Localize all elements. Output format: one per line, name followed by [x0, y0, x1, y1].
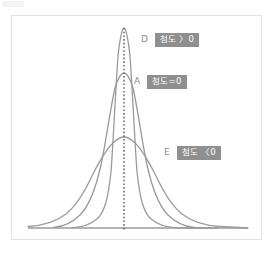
distribution-plot [0, 0, 275, 254]
kurtosis-figure: D 첨도 〉0 A 첨도=0 E 첨도 〈0 [0, 0, 275, 254]
annotation-a: A 첨도=0 [134, 75, 187, 89]
annotation-e-letter: E [164, 148, 170, 157]
annotation-d-letter: D [141, 35, 148, 44]
annotation-a-letter: A [134, 77, 140, 86]
annotation-e: E 첨도 〈0 [164, 146, 221, 160]
annotation-a-badge: 첨도=0 [147, 75, 186, 89]
annotation-d-badge: 첨도 〉0 [155, 33, 199, 47]
annotation-e-badge: 첨도 〈0 [177, 146, 221, 160]
annotation-d: D 첨도 〉0 [141, 33, 199, 47]
